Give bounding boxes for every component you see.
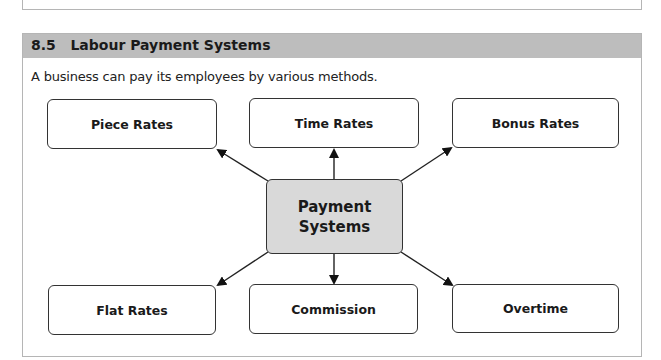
- node-label: Overtime: [503, 301, 568, 316]
- node-payment-systems: Payment Systems: [266, 179, 403, 254]
- arrow-to-overtime: [401, 252, 452, 285]
- arrow-to-flat-rates: [218, 252, 268, 285]
- center-label-line2: Systems: [299, 217, 370, 237]
- center-label-line1: Payment: [298, 197, 372, 217]
- node-label: Flat Rates: [96, 303, 168, 318]
- arrow-to-bonus-rates: [401, 148, 451, 181]
- node-time-rates: Time Rates: [249, 98, 419, 148]
- node-flat-rates: Flat Rates: [48, 285, 216, 335]
- arrow-to-piece-rates: [218, 150, 268, 181]
- node-commission: Commission: [249, 284, 418, 334]
- node-overtime: Overtime: [452, 284, 619, 333]
- node-label: Time Rates: [295, 116, 374, 131]
- node-label: Commission: [291, 302, 376, 317]
- node-label: Bonus Rates: [492, 116, 580, 131]
- node-piece-rates: Piece Rates: [47, 99, 217, 149]
- node-label: Piece Rates: [91, 117, 173, 132]
- node-bonus-rates: Bonus Rates: [452, 98, 619, 148]
